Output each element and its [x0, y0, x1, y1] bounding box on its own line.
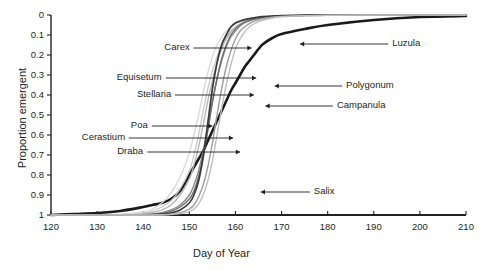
- annotation-arrow-head: [265, 103, 269, 108]
- annotation-arrow-head: [250, 92, 254, 97]
- series-curve-stellaria: [51, 15, 466, 215]
- annotation-arrow-head: [247, 45, 251, 50]
- axis-lines: [47, 15, 466, 215]
- plot-area: [0, 0, 486, 270]
- series-curve-polygonum: [51, 15, 466, 215]
- annotation-arrow-head: [261, 189, 265, 194]
- annotation-arrows: [129, 41, 388, 194]
- series-curve-salix: [51, 16, 466, 215]
- emergence-curve-figure: Proportion emergent Day of Year 12013014…: [0, 0, 486, 270]
- annotation-arrow-head: [252, 75, 256, 80]
- series-curves: [51, 15, 466, 215]
- annotation-arrow-head: [229, 135, 233, 140]
- series-curve-cerastium: [51, 15, 466, 215]
- annotation-arrow-head: [208, 123, 212, 128]
- series-curve-equisetum: [51, 15, 466, 215]
- series-curve-carex: [51, 15, 466, 215]
- series-curve-poa: [51, 15, 466, 215]
- series-curve-campanula: [51, 15, 466, 215]
- annotation-arrow-head: [236, 149, 240, 154]
- series-curve-draba: [51, 15, 466, 215]
- annotation-arrow-head: [300, 41, 304, 46]
- annotation-arrow-head: [275, 83, 279, 88]
